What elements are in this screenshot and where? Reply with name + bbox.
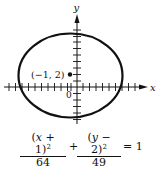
origin-label: 0 [66,90,72,100]
fraction-y: (y − 2)2 49 [77,132,121,169]
fraction-y-numerator: (y − 2)2 [77,132,121,157]
fraction-x-numerator: (x + 1)2 [20,132,66,157]
equals-one: = 1 [123,140,143,153]
y-axis-arrow-icon [75,14,80,23]
fraction-x-denominator: 64 [20,157,66,169]
center-label: (−1, 2) [31,69,65,80]
fraction-x: (x + 1)2 64 [20,132,66,169]
ellipse-equation: (x + 1)2 64 + (y − 2)2 49 = 1 [0,128,157,170]
center-point [68,72,72,76]
y-axis-label: y [73,2,80,13]
ellipse-graph: (−1, 2) y x 0 [0,0,157,128]
x-axis-arrow-icon [139,85,148,90]
fraction-y-denominator: 49 [77,157,121,169]
x-axis-label: x [150,82,156,93]
